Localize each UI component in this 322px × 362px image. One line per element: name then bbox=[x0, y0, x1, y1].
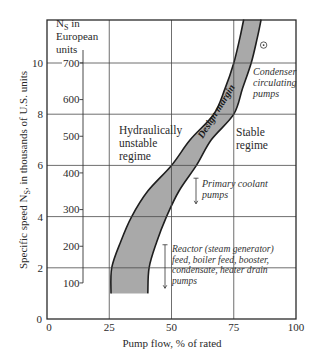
y-tick-label: 0 bbox=[37, 313, 43, 325]
y-tick-label: 4 bbox=[38, 211, 44, 223]
x-tick-label: 100 bbox=[288, 321, 305, 333]
specific-speed-chart: 100200300400500600700 02468100255075100 … bbox=[0, 0, 322, 362]
european-tick-label: 500 bbox=[63, 130, 80, 142]
x-tick-label: 75 bbox=[228, 321, 240, 333]
european-tick-label: 700 bbox=[63, 57, 80, 69]
x-tick-label: 25 bbox=[104, 321, 116, 333]
european-tick-label: 100 bbox=[63, 277, 80, 289]
y-tick-label: 2 bbox=[38, 262, 44, 274]
european-tick-label: 400 bbox=[63, 167, 80, 179]
x-axis-title: Pump flow, % of rated bbox=[122, 337, 222, 349]
circled-dot-marker-dot bbox=[263, 44, 265, 46]
x-tick-label: 50 bbox=[166, 321, 178, 333]
y-tick-label: 8 bbox=[38, 108, 44, 120]
y-tick-label: 10 bbox=[32, 57, 44, 69]
y-tick-label: 6 bbox=[38, 159, 44, 171]
x-tick-label: 0 bbox=[46, 321, 52, 333]
european-tick-label: 200 bbox=[63, 240, 80, 252]
european-tick-label: 600 bbox=[63, 93, 80, 105]
european-tick-label: 300 bbox=[63, 203, 80, 215]
stable-regime-label: Stable regime bbox=[236, 126, 268, 152]
